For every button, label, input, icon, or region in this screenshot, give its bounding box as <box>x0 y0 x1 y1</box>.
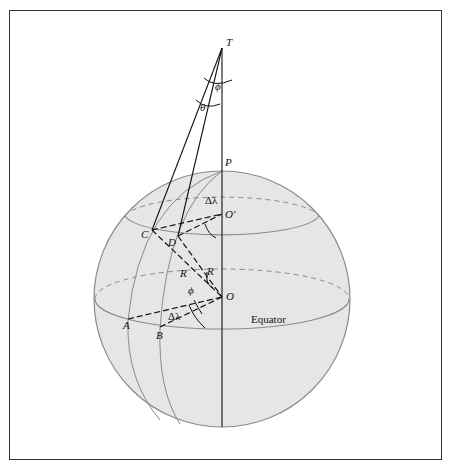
label-a: A <box>122 319 130 331</box>
label-c: C <box>141 228 149 240</box>
label-o: O <box>226 290 234 302</box>
label-r2: R <box>206 265 214 277</box>
label-r1: R <box>179 267 187 279</box>
label-b: B <box>156 329 163 341</box>
label-t: T <box>226 36 233 48</box>
sphere-diagram: T P O′ O C D A B ϕ θ ϕ Δλ Δλ R R Equator <box>0 0 449 469</box>
label-phi-top: ϕ <box>215 80 221 92</box>
equator-label: Equator <box>251 313 286 325</box>
label-p: P <box>224 156 232 168</box>
label-delta-lambda-top: Δλ <box>205 194 218 206</box>
label-delta-lambda-bottom: Δλ <box>168 310 181 322</box>
label-theta: θ <box>200 101 206 113</box>
label-d: D <box>167 236 176 248</box>
label-o-prime: O′ <box>225 208 236 220</box>
label-phi-center: ϕ <box>188 284 194 296</box>
